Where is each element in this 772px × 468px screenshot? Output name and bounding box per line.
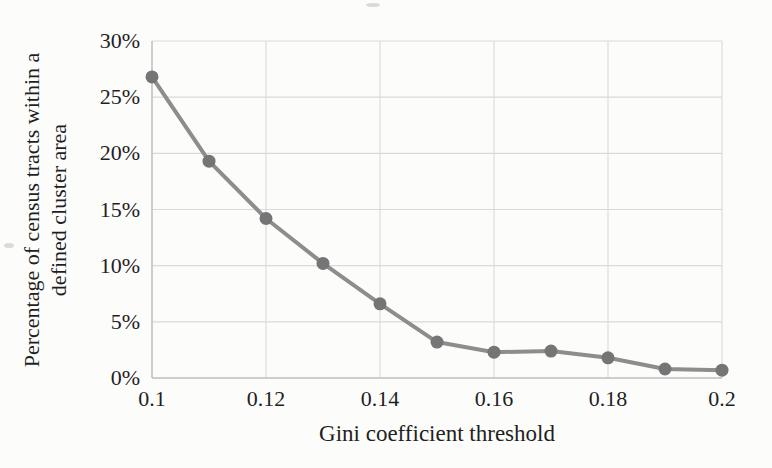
y-tick-label: 20% [50,140,140,166]
y-tick-label: 30% [50,28,140,54]
y-tick-label: 0% [50,365,140,391]
x-tick-label: 0.14 [361,386,400,412]
y-tick-label: 5% [50,309,140,335]
data-point-marker [374,297,387,310]
y-tick-label: 10% [50,253,140,279]
data-point-marker [488,346,501,359]
data-point-marker [545,345,558,358]
data-point-marker [716,364,729,377]
data-point-marker [146,70,159,83]
x-tick-label: 0.12 [247,386,286,412]
data-point-marker [431,336,444,349]
chart-figure: Percentage of census tracts within a def… [0,0,772,468]
x-tick-label: 0.18 [589,386,628,412]
x-tick-label: 0.16 [475,386,514,412]
data-point-marker [317,257,330,270]
data-point-marker [659,363,672,376]
scan-speck [366,3,380,7]
y-tick-label: 25% [50,84,140,110]
y-tick-label: 15% [50,197,140,223]
data-point-marker [602,351,615,364]
data-point-marker [203,155,216,168]
y-axis-title-line1: Percentage of census tracts within a [18,0,45,420]
series-line [152,77,722,370]
x-axis-title: Gini coefficient threshold [152,421,722,447]
scan-speck [4,243,14,248]
x-tick-label: 0.2 [708,386,736,412]
data-point-marker [260,212,273,225]
x-tick-label: 0.1 [138,386,166,412]
